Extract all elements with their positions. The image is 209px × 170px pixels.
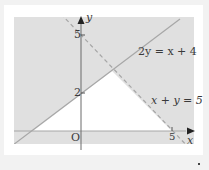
x-tick-label-5: 5 (169, 131, 175, 142)
inequality-graph (0, 0, 209, 170)
y-tick-label-5: 5 (74, 28, 81, 41)
y-tick-label-2: 2 (74, 86, 81, 99)
y-axis-label: y (86, 11, 92, 24)
line-label-x-plus-y-eq-5: x + y = 5 (151, 94, 203, 107)
line-label-2y-eq-x-plus-4: 2y = x + 4 (138, 45, 197, 58)
x-axis-label: x (187, 134, 193, 147)
origin-label: O (71, 131, 80, 144)
dot-mark (198, 163, 200, 165)
